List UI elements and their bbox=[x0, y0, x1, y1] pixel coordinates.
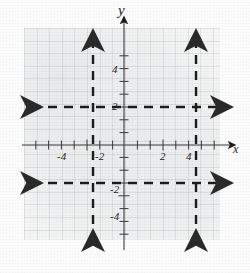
y-tick-label-2: 2 bbox=[112, 100, 118, 112]
y-tick-label-neg4: -4 bbox=[110, 210, 119, 222]
x-tick-label-neg2: -2 bbox=[95, 150, 104, 162]
coordinate-plot bbox=[0, 0, 250, 273]
x-axis-label: x bbox=[233, 142, 238, 157]
x-tick-label-neg4: -4 bbox=[57, 150, 66, 162]
y-tick-label-neg2: -2 bbox=[110, 183, 119, 195]
x-tick-label-2: 2 bbox=[160, 150, 166, 162]
y-axis-label: y bbox=[118, 2, 125, 19]
x-tick-label-4: 4 bbox=[186, 150, 192, 162]
y-tick-label-4: 4 bbox=[112, 63, 118, 75]
graph-figure: y x -4 -2 2 4 -2 -4 2 4 bbox=[0, 0, 250, 273]
